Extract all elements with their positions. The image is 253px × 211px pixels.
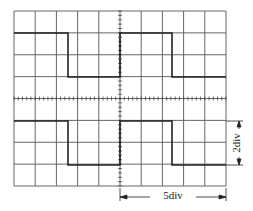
lower-square-wave <box>14 121 226 165</box>
vertical-dimension-label: 2div <box>230 133 242 153</box>
horizontal-dimension-label: 5div <box>163 189 183 201</box>
oscilloscope-diagram: 2div 5div <box>0 0 253 211</box>
